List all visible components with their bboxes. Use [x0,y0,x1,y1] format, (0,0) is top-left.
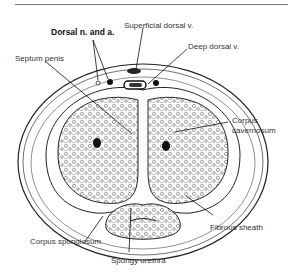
label-dorsal-nerve-artery: Dorsal n. and a. [51,28,114,37]
label-corpus-cavernosum-line1: Corpus [232,116,258,125]
label-deep-dorsal-vein: Deep dorsal v. [188,42,239,51]
label-spongy-urethra: Spongy urethra [111,256,166,265]
label-septum-penis: Septum penis [15,54,64,63]
cross-section-illustration [0,0,288,276]
corpus-spongiosum [106,204,181,239]
label-fibrous-sheath: Fibrous sheath [210,223,263,232]
label-corpus-cavernosum-line2: cavernosum [232,126,276,135]
label-superficial-dorsal-vein: Superficial dorsal v. [124,21,193,30]
label-corpus-spongiosum: Corpus spongiosum [30,237,101,246]
